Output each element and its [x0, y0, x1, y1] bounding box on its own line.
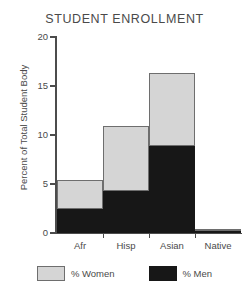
bar-segment-women[interactable] [103, 126, 149, 191]
y-axis-tick-label: 15 [22, 80, 48, 91]
bar-segment-women[interactable] [149, 73, 195, 146]
legend-swatch-icon [149, 266, 177, 281]
bar-segment-men[interactable] [57, 209, 103, 233]
bar-segment-women[interactable] [57, 180, 103, 209]
legend-swatch-icon [37, 266, 65, 281]
y-axis-tick [50, 85, 56, 86]
y-axis-tick [50, 36, 56, 37]
legend-label: % Women [71, 268, 115, 279]
y-axis-tick [50, 183, 56, 184]
bar-segment-women[interactable] [195, 229, 241, 231]
plot-area [57, 37, 241, 233]
chart-legend: % Women% Men [0, 262, 249, 284]
bar-hisp[interactable] [103, 126, 149, 233]
bar-afr[interactable] [57, 180, 103, 233]
x-axis-tick [195, 233, 196, 238]
y-axis-tick [50, 232, 56, 233]
chart-title: STUDENT ENROLLMENT [0, 12, 249, 26]
legend-label: % Men [183, 268, 213, 279]
y-axis-tick [50, 134, 56, 135]
x-axis-label-native: Native [188, 240, 248, 251]
legend-entry[interactable]: % Women [37, 266, 115, 281]
legend-entry[interactable]: % Men [149, 266, 213, 281]
student-enrollment-chart: STUDENT ENROLLMENT Percent of Total Stud… [0, 0, 249, 288]
bar-segment-men[interactable] [103, 191, 149, 233]
y-axis-tick-label: 5 [22, 178, 48, 189]
bar-segment-men[interactable] [195, 231, 241, 233]
x-axis-tick [149, 233, 150, 238]
bar-native[interactable] [195, 229, 241, 233]
y-axis-tick-label: 20 [22, 31, 48, 42]
y-axis-tick-label: 0 [22, 227, 48, 238]
bar-asian[interactable] [149, 73, 195, 233]
y-axis-tick-label: 10 [22, 129, 48, 140]
x-axis-tick [103, 233, 104, 238]
bar-segment-men[interactable] [149, 146, 195, 233]
